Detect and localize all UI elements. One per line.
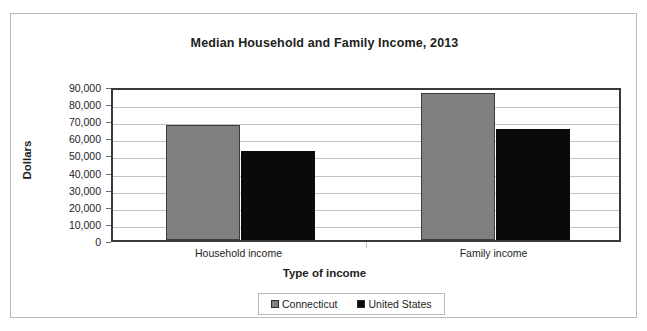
y-axis-tick-label: 90,000: [47, 82, 101, 94]
legend-entry[interactable]: United States: [357, 298, 431, 310]
bar-united-states-family-income: [496, 129, 571, 240]
chart-legend: ConnecticutUnited States: [258, 293, 445, 315]
y-axis-title: Dollars: [21, 130, 33, 190]
y-axis-tick-label: 40,000: [47, 168, 101, 180]
y-axis-tick-mark: [106, 208, 111, 209]
x-axis-category-label: Family income: [460, 247, 528, 259]
black-square-icon: [357, 300, 365, 308]
x-axis-title: Type of income: [11, 267, 638, 279]
y-axis-tick-mark: [106, 156, 111, 157]
y-axis-tick-mark: [106, 191, 111, 192]
y-axis-tick-label: 70,000: [47, 116, 101, 128]
legend-label: United States: [368, 298, 431, 310]
bar-connecticut-family-income: [421, 93, 496, 240]
x-axis-category-separator: [366, 242, 367, 248]
y-axis-tick-mark: [106, 242, 111, 243]
y-axis-tick-mark: [106, 174, 111, 175]
y-axis-tick-label: 10,000: [47, 219, 101, 231]
bar-connecticut-household-income: [166, 125, 241, 240]
y-axis-tick-label: 20,000: [47, 202, 101, 214]
x-axis-category-label: Household income: [195, 247, 282, 259]
legend-label: Connecticut: [282, 298, 337, 310]
plot-area: [111, 88, 621, 242]
y-axis-tick-label: 80,000: [47, 99, 101, 111]
y-axis-tick-mark: [106, 139, 111, 140]
y-axis-tick-label: 60,000: [47, 133, 101, 145]
y-axis-tick-mark: [106, 88, 111, 89]
chart-title: Median Household and Family Income, 2013: [11, 36, 638, 50]
bar-united-states-household-income: [241, 151, 316, 240]
y-axis-tick-mark: [106, 225, 111, 226]
y-axis-tick-mark: [106, 105, 111, 106]
y-axis-tick-label: 30,000: [47, 185, 101, 197]
chart-panel: Median Household and Family Income, 2013…: [10, 13, 637, 318]
legend-entry[interactable]: Connecticut: [271, 298, 337, 310]
y-axis-tick-mark: [106, 122, 111, 123]
gridline: [113, 107, 619, 108]
y-axis-tick-label: 0: [47, 236, 101, 248]
gray-square-icon: [271, 300, 279, 308]
y-axis-tick-label: 50,000: [47, 150, 101, 162]
